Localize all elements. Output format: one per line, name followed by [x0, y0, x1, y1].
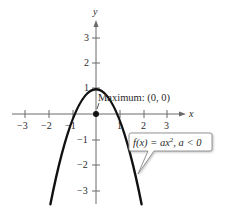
- callout-fx: f(x): [133, 137, 148, 149]
- maximum-point: [93, 111, 99, 117]
- y-tick-label: −3: [77, 185, 88, 196]
- x-tick-label: 3: [164, 120, 169, 131]
- y-tick-label: −2: [77, 159, 88, 170]
- callout-rest: , a < 0: [173, 137, 202, 148]
- x-tick-label: −3: [17, 120, 28, 131]
- x-tick-label: −2: [41, 120, 52, 131]
- y-axis-arrow-icon: [94, 20, 99, 27]
- maximum-label: Maximum: (0, 0): [98, 92, 171, 104]
- y-axis: y 3 2 1 −1 −2 −3: [77, 6, 100, 204]
- x-axis: x −3 −2 −1 1 2 3: [12, 108, 194, 131]
- y-tick-label: 2: [84, 57, 89, 68]
- x-axis-arrow-icon: [179, 112, 186, 117]
- maximum-leader-line: [97, 103, 99, 109]
- function-callout: f(x) = ax2, a < 0: [129, 133, 212, 174]
- x-tick-label: 2: [141, 120, 146, 131]
- x-axis-label: x: [188, 108, 194, 119]
- callout-eq: = ax: [148, 137, 171, 148]
- y-axis-label: y: [92, 6, 98, 17]
- y-tick-label: −1: [77, 134, 88, 145]
- y-tick-label: 3: [84, 32, 89, 43]
- parabola-chart: x −3 −2 −1 1 2 3 y 3 2 1 −1: [0, 0, 226, 216]
- callout-text: f(x) = ax2, a < 0: [133, 136, 202, 149]
